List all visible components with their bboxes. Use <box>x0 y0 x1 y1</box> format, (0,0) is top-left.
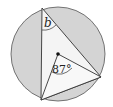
central-angle-label: 87° <box>52 63 72 76</box>
circle-diagram: b 87° <box>0 0 113 107</box>
inscribed-angle-label: b <box>44 16 52 30</box>
center-point <box>56 52 60 56</box>
